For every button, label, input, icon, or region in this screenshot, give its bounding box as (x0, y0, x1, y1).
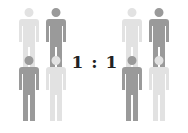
person-icon (17, 56, 41, 121)
person-icon (120, 56, 144, 121)
person-icon (147, 56, 171, 121)
person-icon (44, 56, 68, 121)
ratio-label: 1 : 1 (70, 52, 120, 72)
